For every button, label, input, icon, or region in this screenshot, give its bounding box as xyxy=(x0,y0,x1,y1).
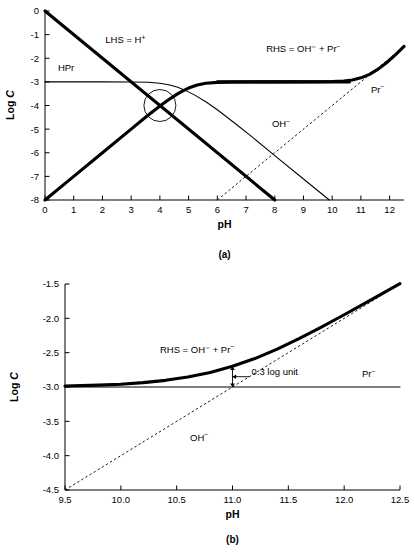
y-tick-label: -1.5 xyxy=(43,278,59,289)
x-tick-label: 12.5 xyxy=(391,494,410,505)
series-curve xyxy=(45,82,349,200)
rhs-label: RHS = OH⁻ + Pr− xyxy=(266,43,340,54)
y-tick-label: -6 xyxy=(31,147,39,158)
series-curve xyxy=(45,82,329,200)
y-tick-label: -4.0 xyxy=(43,450,59,461)
panel-caption: (a) xyxy=(218,249,230,260)
x-tick-label: 7 xyxy=(243,204,248,215)
x-tick-label: 0 xyxy=(42,204,47,215)
x-tick-label: 12 xyxy=(384,204,395,215)
pr-label: Pr− xyxy=(362,368,376,379)
y-axis-title: Log C xyxy=(4,90,16,120)
hpr-label: HPr xyxy=(58,62,74,73)
offset-annotation: 0.3 log unit xyxy=(251,366,298,377)
lhs-label: LHS = H+ xyxy=(105,34,145,45)
x-tick-label: 3 xyxy=(129,204,134,215)
pr-label: Pr− xyxy=(371,83,385,94)
oh-label: OH− xyxy=(272,118,290,129)
y-tick-label: -8 xyxy=(31,194,39,205)
x-tick-label: 5 xyxy=(186,204,191,215)
figure-container: 01234567891011120-1-2-3-4-5-6-7-8pHLog C… xyxy=(0,0,415,554)
x-tick-label: 12.0 xyxy=(335,494,354,505)
y-tick-label: -5 xyxy=(31,124,39,135)
x-tick-label: 9.5 xyxy=(58,494,71,505)
y-tick-label: -2.0 xyxy=(43,313,59,324)
y-tick-label: -2.5 xyxy=(43,347,59,358)
y-tick-label: -3.0 xyxy=(43,381,59,392)
axis-spines xyxy=(45,11,404,200)
y-tick-label: -4 xyxy=(31,100,39,111)
y-axis-title: Log C xyxy=(8,372,20,402)
rhs-label: RHS = OH⁻ + Pr− xyxy=(160,343,234,354)
oh-label: OH− xyxy=(190,431,208,442)
log-unit-offset-arrow-leader-head xyxy=(233,375,237,379)
x-tick-label: 1 xyxy=(71,204,76,215)
x-axis-title: pH xyxy=(218,218,232,230)
x-tick-label: 10.0 xyxy=(112,494,131,505)
chart-a-svg: 01234567891011120-1-2-3-4-5-6-7-8pHLog C… xyxy=(0,0,415,270)
x-tick-label: 11 xyxy=(356,204,366,215)
x-tick-label: 10.5 xyxy=(167,494,186,505)
x-tick-label: 4 xyxy=(157,204,162,215)
y-tick-label: -1 xyxy=(31,29,39,40)
chart-panel-b: 9.510.010.511.011.512.012.5-1.5-2.0-2.5-… xyxy=(0,268,415,554)
x-axis-title: pH xyxy=(226,508,240,520)
x-tick-label: 9 xyxy=(301,204,306,215)
y-tick-label: -3.5 xyxy=(43,416,59,427)
y-tick-label: -7 xyxy=(31,171,39,182)
x-tick-label: 11.5 xyxy=(279,494,297,505)
x-tick-label: 11.0 xyxy=(224,494,242,505)
y-tick-label: -3 xyxy=(31,76,39,87)
chart-b-svg: 9.510.010.511.011.512.012.5-1.5-2.0-2.5-… xyxy=(0,268,415,554)
x-tick-label: 10 xyxy=(327,204,338,215)
x-tick-label: 6 xyxy=(215,204,220,215)
y-tick-label: -4.5 xyxy=(43,484,59,495)
y-tick-label: 0 xyxy=(34,5,39,16)
panel-caption: (b) xyxy=(226,534,239,545)
x-tick-label: 8 xyxy=(272,204,277,215)
x-tick-label: 2 xyxy=(100,204,105,215)
chart-panel-a: 01234567891011120-1-2-3-4-5-6-7-8pHLog C… xyxy=(0,0,415,270)
y-tick-label: -2 xyxy=(31,53,39,64)
